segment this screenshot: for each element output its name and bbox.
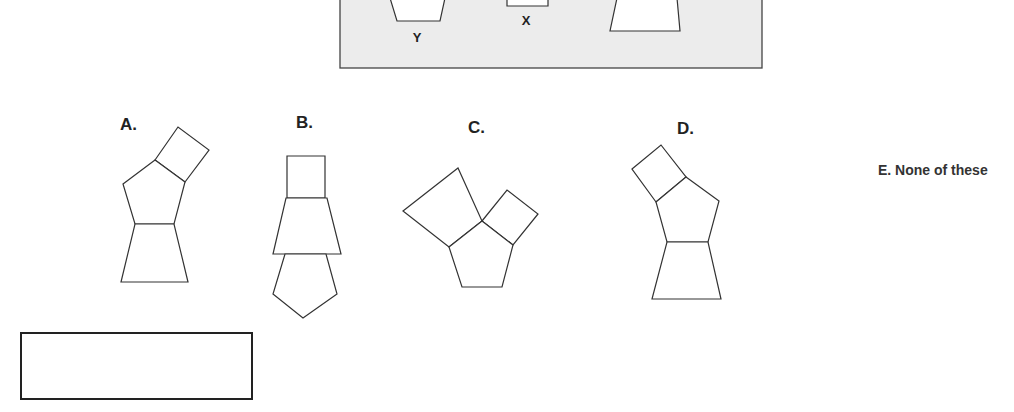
option-a[interactable]: A. — [120, 115, 209, 282]
option-e[interactable]: E. None of these — [878, 162, 988, 179]
option-c[interactable]: C. — [403, 118, 538, 287]
answer-box[interactable] — [20, 332, 253, 400]
option-c-label: C. — [468, 118, 485, 137]
option-a-label: A. — [120, 115, 137, 134]
option-d[interactable]: D. — [632, 119, 721, 299]
reference-label-x: X — [522, 13, 531, 28]
option-d-label: D. — [677, 119, 694, 138]
reference-label-y: Y — [413, 30, 422, 45]
option-b-label: B. — [296, 113, 313, 132]
option-a-trapezoid — [121, 224, 188, 282]
option-b-square — [287, 156, 325, 198]
option-b[interactable]: B. — [273, 113, 341, 318]
reference-shape-x-square — [507, 0, 548, 6]
reference-shape-trapezoid — [610, 0, 680, 31]
reference-panel: Y X — [340, 0, 762, 68]
option-b-trapezoid — [273, 198, 341, 254]
reference-shape-y-pentagon — [390, 0, 445, 21]
option-b-pentagon — [273, 254, 337, 318]
option-d-trapezoid — [652, 242, 721, 299]
